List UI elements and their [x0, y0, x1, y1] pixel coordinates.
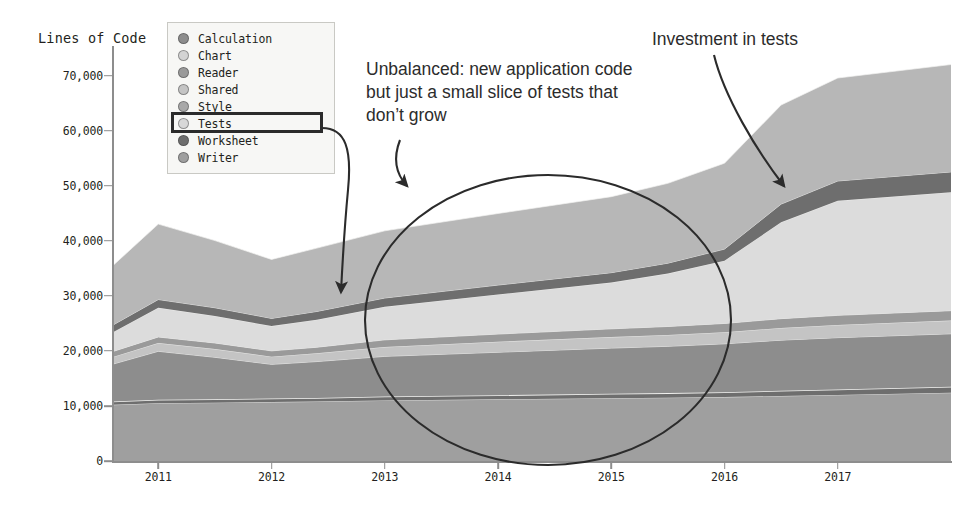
x-tick-mark — [271, 461, 273, 469]
x-tick-mark — [610, 461, 612, 469]
legend-item[interactable]: Worksheet — [178, 132, 334, 149]
y-axis-line — [112, 46, 114, 463]
x-tick-label: 2017 — [824, 470, 851, 484]
annotation-investment: Investment in tests — [652, 28, 798, 51]
legend-item[interactable]: Reader — [178, 64, 334, 81]
legend-label-worksheet: Worksheet — [198, 134, 259, 148]
y-tick-mark — [104, 75, 112, 77]
y-tick-text: 50,000 — [63, 179, 103, 193]
y-tick-mark — [104, 350, 112, 352]
y-tick-text: 70,000 — [63, 69, 103, 83]
legend-label-style: Style — [198, 100, 232, 114]
y-tick-text: 40,000 — [63, 234, 103, 248]
area-band-writer — [113, 393, 951, 461]
legend-swatch-calculation — [178, 33, 189, 44]
x-tick-label: 2011 — [145, 470, 172, 484]
legend-label-calculation: Calculation — [198, 32, 272, 46]
y-tick-mark — [104, 460, 112, 462]
legend-item[interactable]: Style — [178, 98, 334, 115]
y-tick-mark — [104, 185, 112, 187]
legend-highlight-box — [171, 112, 323, 133]
y-tick-text: 10,000 — [63, 399, 103, 413]
legend-label-tests: Tests — [198, 117, 232, 131]
y-tick-mark — [104, 295, 112, 297]
x-tick-label: 2015 — [598, 470, 625, 484]
x-axis-line — [112, 461, 952, 463]
legend-swatch-tests — [178, 118, 189, 129]
chart-legend[interactable]: Calculation Chart Reader Shared Style Te… — [167, 22, 335, 174]
x-tick-mark — [384, 461, 386, 469]
legend-label-reader: Reader — [198, 66, 238, 80]
legend-item[interactable]: Chart — [178, 47, 334, 64]
legend-item[interactable]: Calculation — [178, 30, 334, 47]
y-tick-mark — [104, 240, 112, 242]
y-tick-text: 30,000 — [63, 289, 103, 303]
annotation-unbalanced: Unbalanced: new application code but jus… — [366, 58, 634, 127]
legend-swatch-chart — [178, 50, 189, 61]
x-tick-mark — [837, 461, 839, 469]
legend-item-tests[interactable]: Tests — [178, 115, 334, 132]
legend-swatch-writer — [178, 152, 189, 163]
legend-label-shared: Shared — [198, 83, 238, 97]
x-tick-label: 2016 — [711, 470, 738, 484]
y-tick-mark — [104, 130, 112, 132]
legend-swatch-shared — [178, 84, 189, 95]
legend-swatch-worksheet — [178, 135, 189, 146]
x-tick-label: 2012 — [258, 470, 285, 484]
y-tick-mark — [104, 405, 112, 407]
x-tick-label: 2014 — [485, 470, 512, 484]
legend-label-chart: Chart — [198, 49, 232, 63]
y-tick-text: 60,000 — [63, 124, 103, 138]
legend-item[interactable]: Shared — [178, 81, 334, 98]
x-tick-mark — [497, 461, 499, 469]
y-axis-title: Lines of Code — [38, 30, 146, 46]
legend-label-writer: Writer — [198, 151, 238, 165]
y-tick-text: 0 — [96, 454, 103, 468]
legend-swatch-style — [178, 101, 189, 112]
x-tick-mark — [724, 461, 726, 469]
x-tick-label: 2013 — [371, 470, 398, 484]
x-tick-mark — [158, 461, 160, 469]
y-tick-text: 20,000 — [63, 344, 103, 358]
legend-swatch-reader — [178, 67, 189, 78]
legend-item[interactable]: Writer — [178, 149, 334, 166]
